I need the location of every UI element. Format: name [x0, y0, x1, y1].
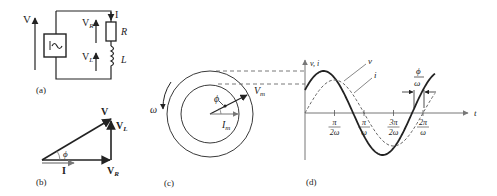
y-axis-label: v, i: [310, 59, 319, 68]
tick-numerator: π: [332, 118, 337, 127]
tick-numerator: 3π: [388, 118, 398, 127]
caption-c: (c): [164, 178, 174, 188]
panel-a-circuit: V I R L VR VL (a): [23, 9, 127, 95]
resistor: [106, 22, 116, 41]
ac-source: [44, 34, 66, 57]
phasor-v-label: V: [101, 106, 109, 117]
tick-denominator: ω: [420, 128, 426, 137]
phasor-angle-label: ϕ: [63, 149, 68, 159]
inductor-voltage-label: VL: [82, 51, 93, 64]
caption-d: (d): [306, 177, 317, 187]
phase-shift-num: ϕ: [416, 66, 421, 76]
phasor-angle-arc: [57, 151, 60, 160]
tick-numerator: π: [362, 118, 367, 127]
inductor: [111, 46, 114, 68]
rotation-arrow: [163, 82, 171, 109]
rl-circuit-figure: V I R L VR VL (a) V VR: [0, 0, 497, 196]
resistor-voltage-label: VR: [82, 17, 94, 30]
phasor-vr-label: VR: [107, 165, 119, 178]
current-label: I: [115, 9, 118, 20]
panel-d-waveforms: v, i t π2ωπω3π2ω2πω v i ϕ ω (d): [305, 56, 477, 187]
panel-c-rotating-phasors: ω Vm Im ϕ (c): [150, 71, 265, 188]
inductor-label: L: [120, 54, 127, 65]
tick-denominator: 2ω: [389, 128, 399, 137]
tick-numerator: 2π: [419, 118, 428, 127]
omega-label: ω: [150, 104, 157, 115]
vm-label: Vm: [254, 85, 265, 98]
i-curve-label: i: [374, 70, 377, 80]
source-voltage-label: V: [23, 13, 31, 25]
v-curve-label: v: [368, 56, 372, 66]
caption-b: (b): [36, 177, 47, 187]
caption-a: (a): [36, 85, 46, 95]
phasor-i-label: I: [62, 165, 66, 176]
panel-b-phasor: V VR VL I ϕ (b): [36, 106, 128, 187]
phasor-vl-label: VL: [116, 120, 128, 133]
angle-label: ϕ: [214, 93, 219, 104]
x-ticks: π2ωπω3π2ω2πω: [329, 110, 430, 137]
phasor-v: [42, 119, 111, 160]
resistor-label: R: [120, 26, 127, 37]
x-axis-label: t: [474, 108, 477, 118]
tick-denominator: ω: [361, 128, 367, 137]
tick-denominator: 2ω: [330, 128, 340, 137]
im-label: Im: [221, 119, 230, 132]
phase-shift-den: ω: [414, 78, 420, 88]
